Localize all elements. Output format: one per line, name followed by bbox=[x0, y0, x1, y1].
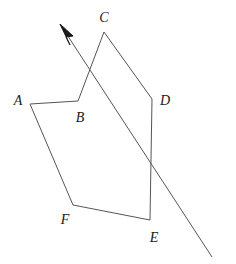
hexagon-abcdef bbox=[30, 32, 152, 220]
geometry-figure: A B C D E F bbox=[0, 0, 236, 264]
vertex-label-b: B bbox=[76, 111, 85, 125]
figure-canvas bbox=[0, 0, 236, 264]
transversal-ray bbox=[60, 24, 212, 257]
vertex-label-d: D bbox=[160, 94, 170, 108]
vertex-label-e: E bbox=[150, 231, 159, 245]
vertex-label-a: A bbox=[14, 94, 23, 108]
vertex-label-c: C bbox=[99, 11, 108, 25]
vertex-label-f: F bbox=[61, 213, 70, 227]
